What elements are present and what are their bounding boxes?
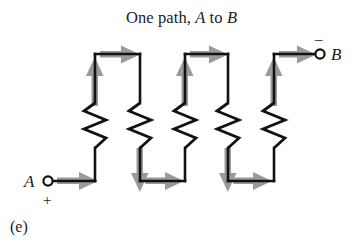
resistor-3: [174, 103, 196, 148]
terminal-b-node: [315, 49, 324, 58]
resistor-4: [217, 103, 239, 148]
figure-panel-label: (e): [10, 218, 28, 236]
terminal-b-label: B: [331, 45, 342, 64]
terminal-a-label: A: [23, 172, 35, 191]
resistor-5: [263, 103, 285, 148]
terminal-b-minus-sign: –: [314, 31, 323, 47]
resistor-1: [84, 103, 106, 148]
terminal-a-plus-sign: +: [43, 192, 51, 208]
figure-root: One path, A to B: [0, 0, 363, 251]
resistor-2: [129, 103, 151, 148]
circuit-diagram: A + B –: [0, 0, 363, 251]
terminal-a-node: [43, 176, 52, 185]
resistors: [84, 103, 285, 148]
